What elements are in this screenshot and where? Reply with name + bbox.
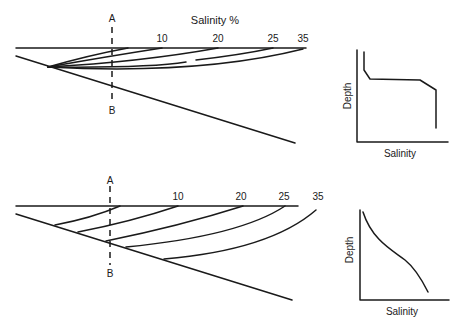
bottom-isohaline-20 — [106, 206, 243, 241]
top-isohaline-35 — [48, 49, 303, 69]
top-estuary-section: Salinity % 10 20 25 35 A B — [16, 13, 309, 143]
top-profile-ylabel: Depth — [342, 83, 353, 110]
top-salinity-title: Salinity % — [191, 14, 240, 26]
top-isohaline-20 — [48, 48, 218, 67]
bottom-profile-ylabel: Depth — [344, 237, 355, 264]
bottom-label-10: 10 — [172, 191, 184, 202]
top-label-b: B — [109, 105, 116, 116]
estuary-salinity-diagram: Salinity % 10 20 25 35 A B Depth Salinit… — [0, 0, 460, 327]
top-label-a: A — [109, 13, 116, 24]
bottom-estuary-section: 10 20 25 35 A B — [16, 175, 324, 300]
top-profile-xlabel: Salinity — [384, 148, 416, 159]
bottom-label-20: 20 — [235, 191, 247, 202]
top-salinity-profile: Depth Salinity — [342, 50, 448, 159]
bottom-label-a: A — [107, 175, 114, 186]
bottom-estuary-bed — [16, 214, 292, 300]
top-profile-curve — [364, 52, 436, 128]
top-profile-axes — [357, 50, 448, 142]
bottom-label-b: B — [107, 268, 114, 279]
bottom-label-35: 35 — [312, 191, 324, 202]
top-label-25: 25 — [267, 33, 279, 44]
bottom-profile-axes — [360, 210, 449, 300]
bottom-salinity-profile: Depth Salinity — [344, 210, 449, 317]
top-estuary-bed — [16, 56, 295, 143]
top-label-35: 35 — [297, 33, 309, 44]
top-label-10: 10 — [156, 33, 168, 44]
bottom-label-25: 25 — [278, 191, 290, 202]
bottom-profile-curve — [363, 212, 428, 292]
top-isohaline-10 — [48, 48, 162, 67]
bottom-isohaline-35 — [164, 210, 316, 259]
top-label-20: 20 — [212, 33, 224, 44]
bottom-profile-xlabel: Salinity — [386, 306, 418, 317]
